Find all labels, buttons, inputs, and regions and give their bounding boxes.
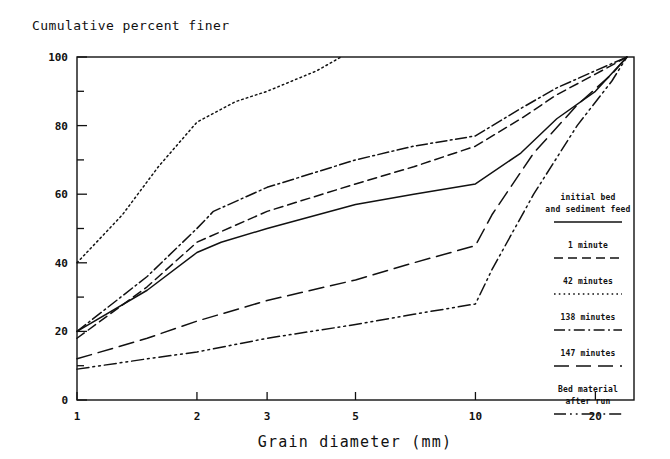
x-tick-label: 20 [589, 410, 602, 423]
legend-label: 42 minutes [563, 276, 613, 286]
legend-label: Bed material [558, 384, 618, 394]
series-line [77, 57, 627, 331]
axis-ticks [77, 57, 595, 400]
legend-label: 1 minute [568, 240, 608, 250]
y-tick-label: 40 [55, 257, 68, 270]
y-axis-tick-labels: 020406080100 [48, 51, 68, 407]
series-line [77, 57, 627, 338]
legend-label: 138 minutes [560, 312, 615, 322]
chart-svg: Cumulative percent finer 020406080100 12… [0, 0, 670, 459]
y-tick-label: 60 [55, 188, 68, 201]
series-line [77, 57, 627, 331]
legend-label: and sediment feed [545, 204, 630, 214]
y-tick-label: 0 [61, 394, 68, 407]
plot-frame [77, 57, 634, 400]
y-tick-label: 80 [55, 120, 68, 133]
y-tick-label: 100 [48, 51, 68, 64]
x-tick-label: 1 [74, 410, 81, 423]
y-tick-label: 20 [55, 325, 68, 338]
legend-label: initial bed [560, 192, 615, 202]
page-title: Cumulative percent finer [32, 18, 229, 33]
chart-figure: Cumulative percent finer 020406080100 12… [0, 0, 670, 459]
legend-label: after run [565, 397, 610, 406]
x-tick-label: 3 [264, 410, 271, 423]
legend-label: 147 minutes [560, 348, 615, 358]
chart-legend: initial bedand sediment feed1 minute42 m… [545, 192, 630, 414]
x-tick-label: 10 [469, 410, 482, 423]
x-axis-tick-labels: 12351020 [74, 410, 602, 423]
series-line [77, 57, 341, 263]
x-tick-label: 5 [352, 410, 359, 423]
x-tick-label: 2 [194, 410, 201, 423]
x-axis-title: Grain diameter (mm) [258, 433, 452, 451]
